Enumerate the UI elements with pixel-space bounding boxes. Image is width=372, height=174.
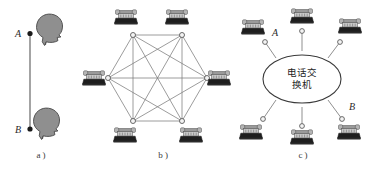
panel-c: 电话交 换机 A B c ) — [239, 9, 362, 160]
phone-icon-c1 — [241, 20, 265, 35]
network-topology-figure: A B a ) — [0, 0, 372, 174]
phone-icon-b4 — [179, 128, 203, 143]
phone-icon-b1 — [114, 10, 138, 25]
panel-a-label-a: A — [14, 28, 22, 39]
panel-c-label-b: B — [349, 101, 355, 112]
panel-a: A B a ) — [14, 14, 63, 160]
hub-label-line1: 电话交 — [287, 67, 317, 78]
panel-c-caption: c ) — [298, 150, 307, 160]
panel-a-node-b — [27, 126, 32, 131]
phone-icon-c4 — [239, 125, 263, 140]
phone-icon-c6 — [337, 125, 361, 140]
person-icon-a — [37, 14, 63, 45]
panel-b-links — [108, 35, 207, 121]
person-icon-b — [34, 108, 60, 139]
panel-a-caption: a ) — [36, 150, 45, 160]
panel-a-label-b: B — [15, 124, 21, 135]
panel-b-caption: b ) — [158, 150, 168, 160]
phone-icon-c2 — [290, 9, 314, 24]
phone-icon-b5 — [113, 128, 137, 143]
phone-icon-b6 — [82, 71, 106, 86]
phone-icon-c5 — [290, 130, 314, 145]
hub-label-line2: 换机 — [292, 79, 312, 90]
panel-c-label-a: A — [271, 27, 279, 38]
panel-a-node-a — [27, 31, 32, 36]
phone-icon-b3 — [207, 71, 231, 86]
phone-icon-c3 — [338, 19, 362, 34]
phone-icon-b2 — [165, 10, 189, 25]
panel-b: b ) — [82, 10, 231, 160]
